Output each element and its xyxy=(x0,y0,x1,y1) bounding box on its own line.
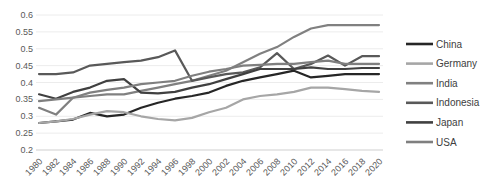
x-tick-label: 2000 xyxy=(193,156,214,177)
gridlines xyxy=(36,15,383,150)
y-tick-label: 0.55 xyxy=(15,27,33,37)
x-tick-label: 2014 xyxy=(312,156,333,177)
legend-item-japan: Japan xyxy=(406,117,463,128)
legend-label: USA xyxy=(436,137,457,148)
x-tick-label: 1986 xyxy=(74,156,95,177)
x-tick-label: 2010 xyxy=(278,156,299,177)
x-tick-label: 2004 xyxy=(227,156,248,177)
x-tick-label: 1998 xyxy=(176,156,197,177)
y-tick-label: 0.2 xyxy=(20,145,33,155)
x-tick-label: 2018 xyxy=(346,156,367,177)
x-tick-label: 1988 xyxy=(91,156,112,177)
legend-label: Japan xyxy=(436,117,463,128)
x-tick-label: 1984 xyxy=(57,156,78,177)
x-tick-label: 1990 xyxy=(108,156,129,177)
line-chart: 0.60.550.50.450.40.350.30.250.2198019821… xyxy=(0,0,481,187)
y-tick-label: 0.3 xyxy=(20,111,33,121)
legend-item-china: China xyxy=(406,39,463,50)
line-chart-panel: 0.60.550.50.450.40.350.30.250.2198019821… xyxy=(0,0,481,187)
y-tick-label: 0.25 xyxy=(15,128,33,138)
legend-label: India xyxy=(436,78,458,89)
x-tick-label: 2020 xyxy=(363,156,384,177)
legend-item-indonesia: Indonesia xyxy=(406,97,480,108)
y-tick-label: 0.5 xyxy=(20,44,33,54)
legend: ChinaGermanyIndiaIndonesiaJapanUSA xyxy=(406,39,480,148)
x-tick-label: 1980 xyxy=(23,156,44,177)
x-tick-label: 1996 xyxy=(159,156,180,177)
legend-label: Indonesia xyxy=(436,97,480,108)
x-tick-label: 2016 xyxy=(329,156,350,177)
legend-item-usa: USA xyxy=(406,137,457,148)
y-tick-label: 0.45 xyxy=(15,61,33,71)
y-tick-label: 0.4 xyxy=(20,78,33,88)
y-tick-label: 0.35 xyxy=(15,94,33,104)
y-tick-label: 0.6 xyxy=(20,10,33,20)
x-tick-label: 2012 xyxy=(295,156,316,177)
x-tick-label: 1982 xyxy=(40,156,61,177)
data-series xyxy=(39,25,379,123)
x-tick-label: 1992 xyxy=(125,156,146,177)
x-tick-label: 2002 xyxy=(210,156,231,177)
legend-item-germany: Germany xyxy=(406,58,477,69)
legend-label: Germany xyxy=(436,58,477,69)
x-tick-label: 1994 xyxy=(142,156,163,177)
x-tick-label: 2008 xyxy=(261,156,282,177)
x-tick-label: 2006 xyxy=(244,156,265,177)
legend-label: China xyxy=(436,39,463,50)
legend-item-india: India xyxy=(406,78,458,89)
